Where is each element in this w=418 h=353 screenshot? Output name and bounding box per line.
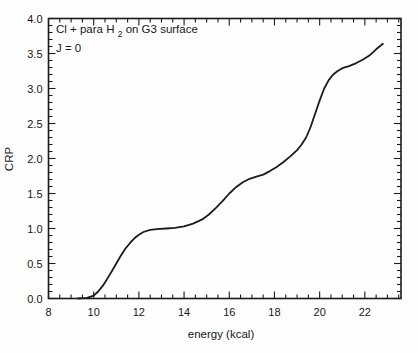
x-tick-label: 12 (133, 306, 145, 318)
annotation-subscript: 2 (118, 29, 123, 39)
y-tick-label: 2.0 (27, 153, 42, 165)
annotation-line1-main: Cl + para H (56, 23, 114, 35)
annotation-line1-rest: on G3 surface (126, 23, 198, 35)
annotation-line2: J = 0 (56, 42, 81, 54)
x-tick-label: 22 (359, 306, 371, 318)
y-axis-label: CRP (3, 147, 15, 172)
crp-curve (78, 44, 383, 299)
y-tick-label: 3.0 (27, 83, 42, 95)
y-tick-label: 1.5 (27, 188, 42, 200)
y-tick-label: 2.5 (27, 118, 42, 130)
x-tick-label: 8 (45, 306, 51, 318)
annotation-line1: Cl + para H 2 on G3 surface (56, 23, 198, 39)
x-tick-label: 20 (314, 306, 326, 318)
x-tick-label: 16 (223, 306, 235, 318)
x-axis-label: energy (kcal) (188, 328, 255, 340)
crp-figure: 8101214161820220.00.51.01.52.02.53.03.54… (0, 0, 418, 353)
y-tick-label: 0.0 (27, 293, 42, 305)
y-tick-label: 0.5 (27, 258, 42, 270)
x-tick-label: 10 (88, 306, 100, 318)
plot-frame (49, 19, 402, 299)
y-tick-label: 1.0 (27, 223, 42, 235)
y-tick-label: 3.5 (27, 48, 42, 60)
crp-chart: 8101214161820220.00.51.01.52.02.53.03.54… (0, 0, 418, 353)
y-tick-label: 4.0 (27, 13, 42, 25)
x-tick-label: 18 (268, 306, 280, 318)
axes: 8101214161820220.00.51.01.52.02.53.03.54… (27, 13, 401, 319)
x-tick-label: 14 (178, 306, 190, 318)
